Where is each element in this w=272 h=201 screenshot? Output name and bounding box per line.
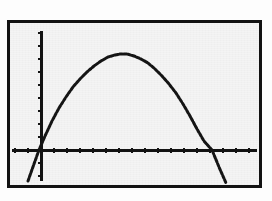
parabola-curve — [28, 54, 226, 183]
parabola-path — [28, 54, 226, 183]
screenshot-root — [0, 0, 272, 201]
calculator-screen-frame — [7, 20, 262, 188]
parabola-plot-svg — [10, 23, 259, 185]
plot-surface — [10, 23, 259, 185]
axes-group — [12, 31, 257, 181]
